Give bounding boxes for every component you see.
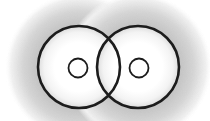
orbital-overlap-diagram xyxy=(0,0,210,121)
diagram-canvas xyxy=(0,0,210,121)
